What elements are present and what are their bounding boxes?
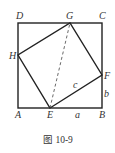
label-b: B	[99, 109, 105, 120]
square-abcd	[18, 23, 102, 108]
geometry-figure: D G C H F A E B c b a 图 10-9	[0, 0, 115, 153]
label-g: G	[66, 10, 73, 21]
square-efgh	[18, 23, 102, 108]
figure-caption: 图 10-9	[43, 135, 73, 145]
label-e: E	[46, 109, 53, 120]
label-f: F	[103, 70, 111, 81]
segment-label-c: c	[73, 79, 78, 90]
segment-label-b: b	[104, 88, 109, 99]
label-c: C	[99, 10, 106, 21]
label-d: D	[15, 10, 24, 21]
label-h: H	[8, 50, 17, 61]
dashed-diagonal-eg	[50, 23, 70, 108]
label-a: A	[14, 109, 22, 120]
segment-label-a: a	[75, 109, 80, 120]
